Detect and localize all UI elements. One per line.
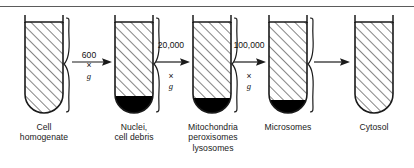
tube-5-graphic xyxy=(352,14,396,118)
tube-4-pellet xyxy=(266,100,310,118)
tube-5-caption: Cytosol xyxy=(330,122,414,132)
arrow-4-graphic xyxy=(312,0,354,168)
arrow-3-graphic xyxy=(230,0,268,168)
tube-4-graphic xyxy=(266,14,310,118)
tube-cell-homogenate xyxy=(22,14,66,118)
tube-cytosol xyxy=(352,14,396,118)
tube-microsomes xyxy=(266,14,310,118)
figure-canvas: Cell homogenate 600 × g xyxy=(0,0,414,168)
tube-1-graphic xyxy=(22,14,66,118)
